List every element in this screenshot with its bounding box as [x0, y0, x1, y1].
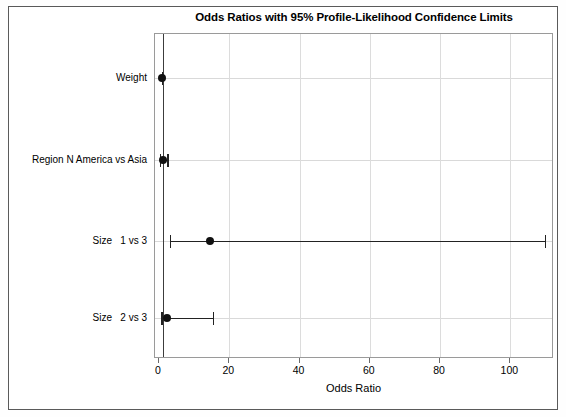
- plot-area: [154, 33, 553, 358]
- ci-row: [155, 70, 552, 86]
- x-tick-mark-20: [228, 358, 229, 363]
- y-axis-label-1: Region N America vs Asia: [32, 154, 147, 165]
- x-tick-mark-0: [158, 358, 159, 363]
- y-axis-label-0: Weight: [116, 72, 147, 83]
- ci-cap-upper: [167, 154, 169, 167]
- x-tick-label-60: 60: [363, 364, 375, 376]
- estimate-marker: [206, 237, 214, 245]
- x-tick-label-80: 80: [433, 364, 445, 376]
- x-tick-mark-80: [439, 358, 440, 363]
- estimate-marker: [163, 314, 171, 322]
- x-tick-label-40: 40: [293, 364, 305, 376]
- x-tick-mark-40: [299, 358, 300, 363]
- y-axis-label-2: Size 1 vs 3: [93, 235, 147, 246]
- x-tick-label-100: 100: [501, 364, 519, 376]
- x-tick-mark-100: [509, 358, 510, 363]
- ci-row: [155, 310, 552, 326]
- x-tick-label-20: 20: [222, 364, 234, 376]
- ci-line: [171, 241, 546, 243]
- chart-canvas: Odds Ratios with 95% Profile-Likelihood …: [0, 0, 566, 417]
- chart-title: Odds Ratios with 95% Profile-Likelihood …: [154, 11, 554, 23]
- ci-cap-lower: [170, 235, 172, 248]
- ci-row: [155, 152, 552, 168]
- y-axis-label-3: Size 2 vs 3: [93, 312, 147, 323]
- estimate-marker: [159, 156, 167, 164]
- ci-cap-upper: [213, 312, 215, 325]
- ci-row: [155, 233, 552, 249]
- x-tick-mark-60: [369, 358, 370, 363]
- estimate-marker: [158, 74, 166, 82]
- ci-cap-upper: [545, 235, 547, 248]
- x-tick-label-0: 0: [155, 364, 161, 376]
- x-axis-title: Odds Ratio: [154, 382, 553, 394]
